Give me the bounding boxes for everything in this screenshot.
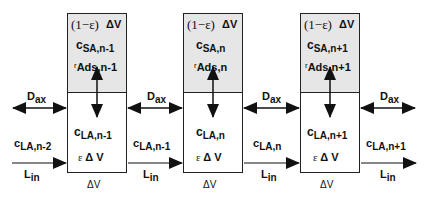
flow-concentration-label-0: cLA,n-2: [14, 137, 51, 149]
flow-concentration-label-1: cLA,n-1: [133, 137, 170, 149]
dispersion-label-2: Dax: [262, 90, 281, 102]
stage-cell-n: (1−ε) ΔV cSA,n rAds,n cLA,n ε Δ V ΔV: [183, 13, 243, 198]
cell-volume-label: ΔV: [203, 179, 216, 190]
cell-volume-label: ΔV: [320, 179, 333, 190]
stage-cell-n-1: (1−ε) ΔV cSA,n-1 rAds,n-1 cLA,n-1 ε Δ V …: [67, 13, 127, 198]
dispersion-label-0: Dax: [27, 90, 46, 102]
flow-rate-label-1: Lin: [143, 168, 159, 180]
cell-volume-label: ΔV: [87, 179, 100, 190]
dispersion-label-3: Dax: [380, 90, 399, 102]
mass-transfer-arrow: [300, 13, 360, 173]
mass-transfer-arrow: [67, 13, 127, 173]
mass-transfer-arrow: [183, 13, 243, 173]
flow-concentration-label-3: cLA,n+1: [366, 137, 406, 149]
flow-concentration-label-2: cLA,n: [253, 137, 281, 149]
diagram-canvas: (1−ε) ΔV cSA,n-1 rAds,n-1 cLA,n-1 ε Δ V …: [0, 0, 430, 198]
dispersion-label-1: Dax: [147, 90, 166, 102]
flow-rate-label-3: Lin: [380, 168, 396, 180]
flow-rate-label-2: Lin: [261, 168, 277, 180]
stage-cell-n+1: (1−ε) ΔV cSA,n+1 rAds,n+1 cLA,n+1 ε Δ V …: [300, 13, 360, 198]
flow-rate-label-0: Lin: [24, 168, 40, 180]
